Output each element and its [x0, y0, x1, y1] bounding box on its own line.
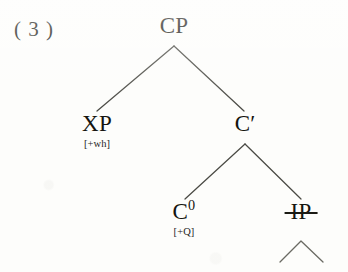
syntax-tree-figure: ( 3 ) CP XP [+wh] C′ C0 [+Q] IP	[0, 0, 348, 272]
branch-cp-xp	[97, 46, 174, 111]
branch-cbar-c0	[185, 144, 245, 199]
tree-node-cp-label: CP	[160, 14, 189, 37]
tree-node-ip-label: IP	[291, 200, 312, 223]
tree-node-cp: CP	[160, 14, 189, 37]
tree-node-c-zero-base: C	[173, 199, 189, 224]
branch-cbar-ip	[245, 144, 301, 199]
tree-node-c-zero-label: C0	[173, 200, 196, 223]
ip-unexpanded-triangle	[280, 241, 323, 262]
tree-node-xp: XP [+wh]	[82, 112, 112, 150]
branch-cp-cbar	[174, 46, 244, 111]
tree-node-c-bar-label: C′	[235, 112, 255, 135]
tree-node-c-zero-superscript: 0	[188, 197, 195, 213]
tree-node-ip: IP	[291, 200, 312, 223]
tree-node-xp-label: XP	[82, 112, 112, 135]
tree-node-c-zero-feature: [+Q]	[173, 227, 196, 238]
tree-node-c-bar: C′	[235, 112, 255, 135]
tree-node-c-zero: C0 [+Q]	[173, 200, 196, 238]
tree-node-xp-feature: [+wh]	[82, 139, 112, 150]
